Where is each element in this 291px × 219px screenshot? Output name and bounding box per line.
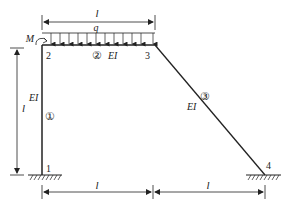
bottom-left-dimension-label: l bbox=[95, 179, 98, 191]
moment-at-node-2: M bbox=[25, 33, 47, 45]
load-label-q: q bbox=[94, 22, 99, 33]
member-stiffness-2: EI bbox=[107, 50, 118, 61]
fixed-support-node-1 bbox=[28, 175, 62, 180]
bottom-dimension: l l bbox=[42, 179, 265, 199]
member-stiffness-1: EI bbox=[28, 92, 39, 103]
member-label-2: ② bbox=[92, 49, 102, 61]
member-label-3: ③ bbox=[200, 90, 210, 102]
node-label-1: 1 bbox=[46, 163, 51, 174]
top-dimension-label: l bbox=[95, 7, 98, 19]
top-dimension: l bbox=[42, 7, 155, 30]
member-stiffness-3: EI bbox=[186, 101, 197, 112]
node-label-4: 4 bbox=[266, 160, 271, 171]
bottom-right-dimension-label: l bbox=[206, 179, 209, 191]
node-label-2: 2 bbox=[46, 50, 51, 61]
member-label-1: ① bbox=[45, 110, 55, 122]
node-label-3: 3 bbox=[145, 50, 150, 61]
structural-diagram: l q M 2 3 1 4 ② EI ① EI ③ EI bbox=[0, 0, 291, 219]
left-dimension-label: l bbox=[22, 102, 25, 114]
fixed-support-node-4 bbox=[246, 175, 281, 180]
distributed-load: q bbox=[42, 22, 155, 44]
left-dimension: l bbox=[10, 48, 25, 175]
moment-label-M: M bbox=[25, 33, 35, 44]
member-3 bbox=[155, 45, 265, 175]
